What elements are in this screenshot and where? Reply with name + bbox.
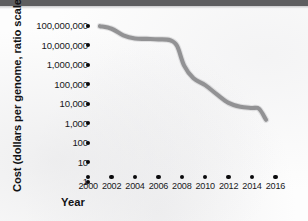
x-tick-dot: [226, 175, 230, 179]
y-tick-label: 10: [14, 157, 88, 169]
y-tick-dot: [86, 63, 90, 67]
y-tick-dot: [86, 160, 90, 164]
y-tick-label: 1,000: [14, 118, 88, 130]
y-tick-label: 1,000,000: [14, 59, 88, 71]
y-tick-label: 10,000: [14, 98, 88, 110]
cost-series-line: [100, 26, 266, 120]
y-tick-dot: [86, 141, 90, 145]
x-tick-dot: [250, 175, 254, 179]
x-tick-dot: [180, 175, 184, 179]
y-tick-dot: [86, 121, 90, 125]
x-axis-title: Year: [61, 196, 85, 208]
cost-series-halo: [100, 26, 266, 120]
y-tick-dot: [86, 102, 90, 106]
x-tick-dot: [203, 175, 207, 179]
y-tick-label: 10,000,000: [14, 40, 88, 52]
x-tick-dot: [273, 175, 277, 179]
scan-edge-gradient: [0, 6, 308, 9]
x-tick-dot: [133, 175, 137, 179]
y-tick-dot: [86, 43, 90, 47]
y-tick-label: 100,000,000: [14, 20, 88, 32]
x-tick-dot: [109, 175, 113, 179]
x-tick-label: 2016: [258, 181, 292, 191]
x-tick-dot: [156, 175, 160, 179]
y-tick-label: 100: [14, 137, 88, 149]
chart-figure: Cost (dollars per genome, ratio scale) 1…: [0, 0, 308, 221]
y-tick-dot: [86, 82, 90, 86]
y-tick-label: 100,000: [14, 79, 88, 91]
y-tick-dot: [86, 24, 90, 28]
x-tick-dot: [86, 175, 90, 179]
